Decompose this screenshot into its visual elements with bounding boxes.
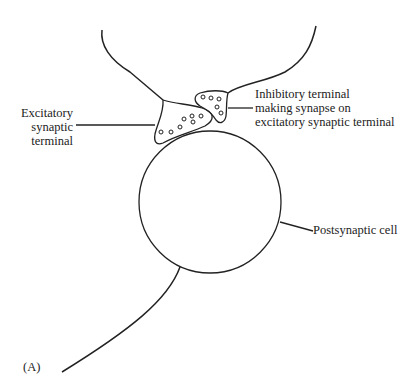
- postsynaptic-leader: [280, 222, 313, 231]
- panel-label: (A): [23, 360, 40, 374]
- diagram-drawing: [0, 0, 410, 386]
- inhibitory-label-line: excitatory synaptic terminal: [255, 115, 395, 129]
- excitatory-axon: [102, 30, 163, 100]
- inhibitory-label-line: Inhibitory terminal: [255, 87, 395, 101]
- excitatory-label: Excitatory synaptic terminal: [15, 106, 73, 148]
- postsynaptic-cell: [139, 131, 281, 273]
- postsynaptic-label: Postsynaptic cell: [313, 223, 397, 237]
- excitatory-label-line: Excitatory: [15, 106, 73, 120]
- excitatory-label-line: synaptic: [15, 120, 73, 134]
- inhibitory-axon: [228, 26, 316, 93]
- synapse-diagram: Excitatory synaptic terminal Inhibitory …: [0, 0, 410, 386]
- postsynaptic-axon: [62, 267, 180, 372]
- inhibitory-label-line: making synapse on: [255, 101, 395, 115]
- inhibitory-label: Inhibitory terminal making synapse on ex…: [255, 87, 395, 129]
- excitatory-label-line: terminal: [15, 134, 73, 148]
- excitatory-terminal: [155, 100, 212, 144]
